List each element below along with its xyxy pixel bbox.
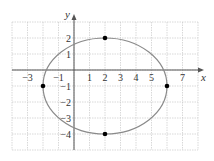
- y-axis-label: y: [64, 8, 70, 20]
- y-axis-arrow-icon: [72, 14, 77, 20]
- x-tick-label: 5: [149, 72, 154, 83]
- x-tick-label: 1: [87, 72, 92, 83]
- x-tick-label: 4: [134, 72, 139, 83]
- x-tick-label: 2: [103, 72, 108, 83]
- x-tick-label: −3: [22, 72, 33, 83]
- x-axis-label: x: [200, 71, 206, 83]
- data-point: [41, 84, 46, 89]
- y-tick-label: 1: [66, 49, 71, 60]
- grid: [12, 22, 198, 150]
- y-tick-label: −3: [60, 113, 71, 124]
- y-tick-label: −4: [60, 129, 71, 140]
- data-point: [103, 132, 108, 137]
- data-point: [103, 36, 108, 41]
- data-point: [165, 84, 170, 89]
- axes: x y: [12, 8, 206, 150]
- y-tick-label: −1: [60, 81, 71, 92]
- ellipse-chart: x y −3−112345721−1−2−3−4: [0, 0, 214, 161]
- x-tick-label: 3: [118, 72, 123, 83]
- y-tick-label: 2: [66, 33, 71, 44]
- y-tick-label: −2: [60, 97, 71, 108]
- x-tick-label: 7: [180, 72, 185, 83]
